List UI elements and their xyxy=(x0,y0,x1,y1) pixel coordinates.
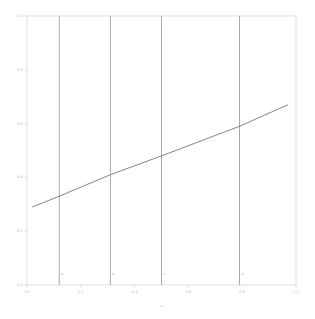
figure-background xyxy=(0,0,315,319)
y-tick-label: 1.0 xyxy=(17,14,23,18)
y-tick-label: 0.0 xyxy=(17,283,23,287)
plot-canvas: 0.00.20.40.60.81.0 0.00.20.40.60.81.0 ab… xyxy=(0,0,315,319)
x-tick-label: 0.0 xyxy=(24,290,30,294)
x-tick-label: 0.2 xyxy=(78,290,84,294)
x-tick-label: 0.8 xyxy=(239,290,245,294)
x-tick-label: 0.6 xyxy=(186,290,192,294)
vertical-reference-line-label: b xyxy=(112,272,114,276)
x-tick-label: 1.0 xyxy=(293,290,299,294)
y-tick-label: 0.4 xyxy=(17,175,23,179)
vertical-reference-line-label: d xyxy=(241,272,243,276)
figure-container: 0.00.20.40.60.81.0 0.00.20.40.60.81.0 ab… xyxy=(0,0,315,319)
x-tick-label: 0.4 xyxy=(132,290,138,294)
vertical-reference-line-label: a xyxy=(61,272,63,276)
y-tick-label: 0.6 xyxy=(17,122,23,126)
y-tick-label: 0.2 xyxy=(17,229,23,233)
vertical-reference-line-label: c xyxy=(163,272,165,276)
y-tick-label: 0.8 xyxy=(17,68,23,72)
